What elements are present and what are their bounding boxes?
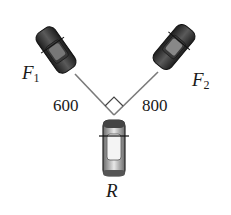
rope-left bbox=[75, 74, 114, 115]
force-diagram: F1 F2 600 800 R bbox=[0, 0, 231, 215]
label-r: R bbox=[106, 180, 118, 202]
label-rope-left-value: 600 bbox=[53, 96, 79, 116]
car-f2-icon bbox=[148, 20, 200, 75]
label-rope-right-value: 800 bbox=[142, 96, 168, 116]
car-r-icon bbox=[99, 120, 129, 176]
label-f1: F1 bbox=[22, 62, 40, 86]
right-angle-marker bbox=[105, 97, 123, 106]
label-f2: F2 bbox=[192, 69, 210, 93]
